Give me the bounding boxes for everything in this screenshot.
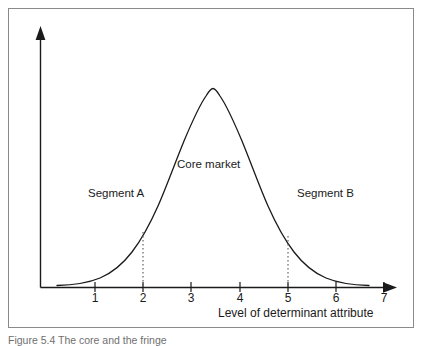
- segment-b-label: Segment B: [297, 187, 354, 199]
- segment-a-label: Segment A: [88, 187, 144, 199]
- x-tick-label-6: 6: [326, 291, 346, 305]
- x-tick-label-2: 2: [133, 291, 153, 305]
- x-tick-label-4: 4: [230, 291, 250, 305]
- figure-root: 1 2 3 4 5 6 7 Core market Segment A Segm…: [0, 0, 425, 346]
- x-tick-label-3: 3: [181, 291, 201, 305]
- x-tick-label-7: 7: [374, 291, 394, 305]
- x-axis-title: Level of determinant attribute: [218, 306, 373, 320]
- figure-caption: Figure 5.4 The core and the fringe: [8, 334, 167, 346]
- x-tick-label-1: 1: [85, 291, 105, 305]
- x-tick-label-5: 5: [278, 291, 298, 305]
- core-market-label: Core market: [177, 158, 240, 170]
